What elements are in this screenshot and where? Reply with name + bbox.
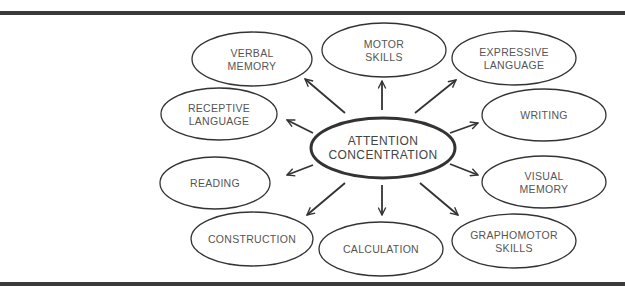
center-label-line: ATTENTION [348, 134, 419, 148]
node-label-line: GRAPHOMOTOR [470, 229, 558, 241]
arrow-reading [287, 165, 313, 175]
arrow-verbal-memory [305, 79, 345, 113]
node-expressive-language: EXPRESSIVELANGUAGE [452, 31, 576, 85]
node-label-line: CALCULATION [343, 243, 419, 255]
node-label-line: READING [190, 177, 240, 189]
arrow-graphomotor-skills [420, 183, 458, 215]
node-label-line: LANGUAGE [484, 59, 545, 71]
arrow-expressive-language [415, 80, 456, 113]
node-label-line: RECEPTIVE [188, 102, 250, 114]
node-label-line: WRITING [520, 109, 568, 121]
node-label-line: SKILLS [495, 242, 532, 254]
node-calculation: CALCULATION [319, 222, 443, 276]
node-receptive-language: RECEPTIVELANGUAGE [161, 88, 277, 140]
arrow-visual-memory [450, 164, 478, 175]
arrow-receptive-language [287, 120, 313, 133]
node-graphomotor-skills: GRAPHOMOTORSKILLS [452, 214, 576, 268]
center-node-group: ATTENTIONCONCENTRATION [311, 118, 455, 178]
center-node-attention: ATTENTIONCONCENTRATION [311, 118, 455, 178]
node-label-line: MEMORY [228, 60, 277, 72]
node-label-line: CONSTRUCTION [208, 233, 296, 245]
node-writing: WRITING [482, 89, 606, 141]
node-label-line: EXPRESSIVE [479, 46, 549, 58]
node-label-line: MEMORY [520, 183, 569, 195]
node-construction: CONSTRUCTION [191, 212, 313, 266]
node-visual-memory: VISUALMEMORY [482, 156, 606, 208]
node-label-line: SKILLS [365, 51, 402, 63]
node-reading: READING [160, 157, 270, 209]
node-motor-skills: MOTORSKILLS [322, 23, 446, 77]
node-label-line: MOTOR [364, 38, 405, 50]
center-label-line: CONCENTRATION [329, 148, 438, 162]
node-label-line: VISUAL [524, 170, 563, 182]
arrow-construction [307, 183, 345, 215]
diagram-canvas: VERBALMEMORYMOTORSKILLSEXPRESSIVELANGUAG… [0, 0, 625, 291]
node-verbal-memory: VERBALMEMORY [192, 32, 312, 86]
arrow-writing [450, 123, 478, 133]
node-label-line: VERBAL [230, 47, 273, 59]
node-label-line: LANGUAGE [189, 115, 250, 127]
